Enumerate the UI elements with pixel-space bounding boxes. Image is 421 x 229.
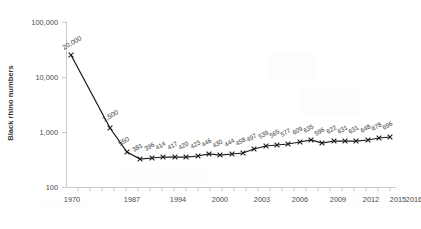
y-tick-label-1000: 1,000 [40,128,59,137]
x-tick-label-2000: 2000 [212,195,228,204]
x-tick-label-2016: 2016 [406,195,421,204]
y-tick-label-100: 100 [46,183,58,192]
y-axis-title-group: Black rhino numbers [6,65,15,141]
x-tick-label-1994: 1994 [170,195,186,204]
x-tick-label-2003: 2003 [254,195,270,204]
x-tick-label-1987: 1987 [124,195,140,204]
chart-container: Black rhino numbers 100,000 10,000 1,000… [0,0,421,229]
x-tick-label-1970: 1970 [64,195,80,204]
x-tick-label-2009: 2009 [330,195,346,204]
x-tick-label-2012: 2012 [363,195,379,204]
y-tick-label-10000: 10,000 [35,73,58,82]
x-tick-label-2006: 2006 [292,195,308,204]
line-chart: Black rhino numbers 100,000 10,000 1,000… [0,0,421,229]
y-axis-title: Black rhino numbers [6,65,15,141]
y-tick-label-100000: 100,000 [31,18,58,27]
x-tick-label-2015: 2015 [390,195,406,204]
